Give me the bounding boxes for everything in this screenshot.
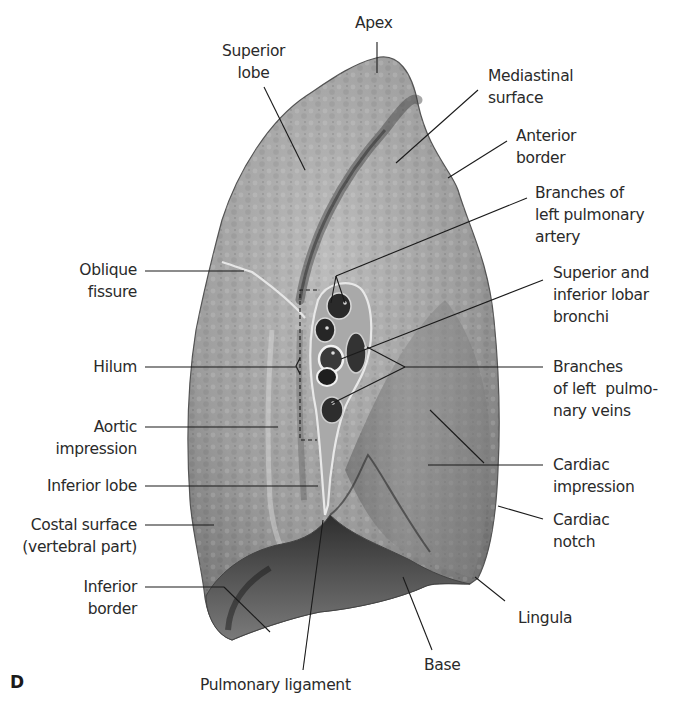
label-base: Base xyxy=(424,654,461,676)
label-superior-lobe: Superior lobe xyxy=(222,40,285,84)
label-cardiac-impression: Cardiac impression xyxy=(553,454,635,498)
label-anterior-border: Anterior border xyxy=(516,125,576,169)
label-lingula: Lingula xyxy=(518,607,572,629)
label-branches-left-pulmonary-artery: Branches of left pulmonary artery xyxy=(535,182,644,248)
lung-anatomy-figure: Apex Superior lobe Mediastinal surface A… xyxy=(0,0,675,703)
label-pulmonary-ligament: Pulmonary ligament xyxy=(200,674,351,696)
label-mediastinal-surface: Mediastinal surface xyxy=(488,65,573,109)
label-branches-left-pulmonary-veins: Branches of left pulmo- nary veins xyxy=(553,356,658,422)
label-inferior-border: Inferior border xyxy=(37,576,137,620)
label-aortic-impression: Aortic impression xyxy=(17,416,137,460)
label-apex: Apex xyxy=(355,12,393,34)
pulmonary-vein-branch xyxy=(321,397,343,423)
label-oblique-fissure: Oblique fissure xyxy=(55,259,137,303)
label-costal-surface: Costal surface (vertebral part) xyxy=(0,514,137,558)
pulmonary-artery-branch xyxy=(315,318,335,342)
label-hilum: Hilum xyxy=(55,356,137,378)
pulmonary-artery-branch xyxy=(327,293,351,319)
panel-letter: D xyxy=(10,672,24,692)
lobar-bronchus xyxy=(317,368,337,386)
label-superior-inferior-lobar-bronchi: Superior and inferior lobar bronchi xyxy=(553,262,649,328)
label-cardiac-notch: Cardiac notch xyxy=(553,509,610,553)
label-inferior-lobe: Inferior lobe xyxy=(2,475,137,497)
